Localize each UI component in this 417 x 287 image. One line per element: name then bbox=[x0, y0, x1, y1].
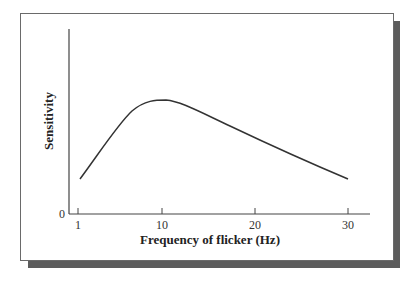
y-origin-label: 0 bbox=[59, 207, 65, 221]
x-axis-title: Frequency of flicker (Hz) bbox=[140, 232, 280, 247]
y-axis-title: Sensitivity bbox=[41, 92, 56, 150]
x-tick-label-30: 30 bbox=[342, 218, 354, 232]
x-tick-label-20: 20 bbox=[249, 218, 261, 232]
line-chart: 0 1 10 20 30 Frequency of flicker (Hz) S… bbox=[0, 0, 417, 287]
x-tick-label-1: 1 bbox=[75, 218, 81, 232]
x-tick-label-10: 10 bbox=[156, 218, 168, 232]
sensitivity-curve bbox=[80, 100, 348, 179]
